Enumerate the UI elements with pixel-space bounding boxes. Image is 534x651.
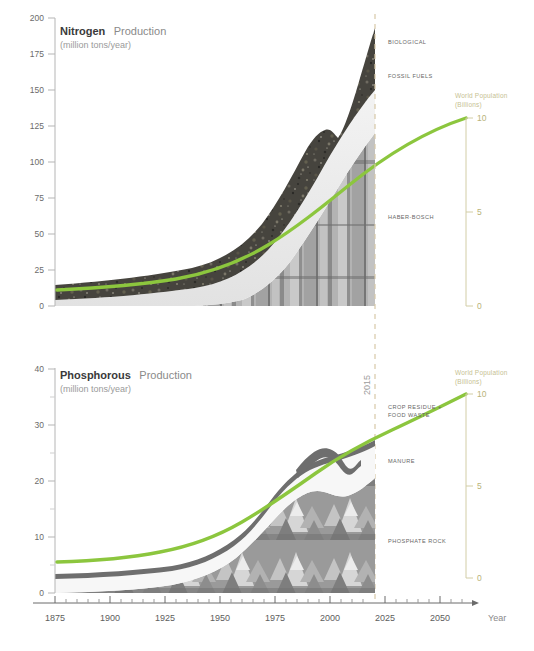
phosphorous-population-tick-10: 10 xyxy=(477,389,487,399)
nitrogen-stacked-areas xyxy=(55,28,375,306)
phosphorous-band-label-manure: MANURE xyxy=(388,458,415,464)
nitrogen-y-tick-label: 175 xyxy=(30,49,44,59)
nitrogen-y-tick: 150 xyxy=(30,85,55,95)
x-axis: 1875 1900 1925 1950 1975 2000 2025 2050 … xyxy=(33,596,506,623)
nitrogen-population-axis-title-line2: (Billions) xyxy=(455,101,482,109)
nitrogen-y-tick: 25 xyxy=(35,265,55,275)
nitrogen-y-tick-label: 75 xyxy=(35,193,45,203)
phosphorous-title-bold: Phosphorous xyxy=(60,369,131,381)
phosphorous-y-tick-label: 10 xyxy=(35,532,45,542)
nitrogen-y-tick: 100 xyxy=(30,157,55,167)
phosphorous-population-axis-title-line1: World Population xyxy=(455,369,508,377)
phosphorous-chart: 0 10 20 30 40 Phosphorous Production (mi… xyxy=(35,364,508,598)
phosphorous-title-rest: Production xyxy=(139,369,192,381)
nitrogen-y-tick: 75 xyxy=(35,193,55,203)
infographic-root: 0 25 50 75 100 125 150 175 200 Nitrogen … xyxy=(0,0,534,651)
year-2015-marker-label: 2015 xyxy=(362,375,372,395)
phosphorous-y-tick: 20 xyxy=(35,476,55,486)
phosphorous-population-tick-0: 0 xyxy=(477,573,482,583)
phosphorous-y-tick: 0 xyxy=(39,588,55,598)
x-tick-label-2000: 2000 xyxy=(320,613,340,623)
nitrogen-chart: 0 25 50 75 100 125 150 175 200 Nitrogen … xyxy=(30,13,508,311)
x-tick-label-1975: 1975 xyxy=(265,613,285,623)
nitrogen-chart-title: Nitrogen Production xyxy=(60,21,166,38)
nitrogen-y-tick: 0 xyxy=(39,301,55,311)
nitrogen-population-tick-5: 5 xyxy=(477,207,482,217)
phosphorous-chart-subtitle: (million tons/year) xyxy=(60,384,131,394)
nitrogen-y-ticks: 0 25 50 75 100 125 150 175 200 xyxy=(30,13,55,311)
nitrogen-y-tick-label: 150 xyxy=(30,85,44,95)
phosphorous-y-tick: 40 xyxy=(35,364,55,374)
phosphorous-population-axis: 10 5 0 World Population (Billions) xyxy=(455,369,508,583)
nitrogen-y-tick-label: 25 xyxy=(35,265,45,275)
nitrogen-population-tick-10: 10 xyxy=(477,113,487,123)
nitrogen-title-rest: Production xyxy=(114,25,167,37)
nitrogen-y-tick-label: 200 xyxy=(30,13,44,23)
nitrogen-y-tick-label: 50 xyxy=(35,229,45,239)
x-axis-label: Year xyxy=(488,613,506,623)
x-tick-label-2025: 2025 xyxy=(375,613,395,623)
nitrogen-band-label-haber-bosch: HABER-BOSCH xyxy=(388,214,434,220)
phosphorous-stacked-areas xyxy=(55,440,375,593)
phosphorous-population-tick-5: 5 xyxy=(477,481,482,491)
nitrogen-y-tick: 50 xyxy=(35,229,55,239)
nitrogen-population-tick-0: 0 xyxy=(477,301,482,311)
phosphorous-y-ticks: 0 10 20 30 40 xyxy=(35,364,55,598)
nitrogen-band-label-fossil-fuels: FOSSIL FUELS xyxy=(388,73,433,79)
phosphorous-y-tick: 30 xyxy=(35,420,55,430)
x-tick-label-2050: 2050 xyxy=(430,613,450,623)
phosphorous-band-label-crop-residue-line2: FOOD WASTE xyxy=(388,412,430,418)
nitrogen-title-bold: Nitrogen xyxy=(60,25,106,37)
x-tick-label-1875: 1875 xyxy=(45,613,65,623)
x-axis-arrow-icon xyxy=(472,600,479,606)
phosphorous-band-label-crop-residue-line1: CROP RESIDUE + xyxy=(388,404,442,410)
phosphorous-y-tick-label: 20 xyxy=(35,476,45,486)
phosphorous-y-tick-label: 30 xyxy=(35,420,45,430)
x-tick-label-1925: 1925 xyxy=(155,613,175,623)
nitrogen-y-tick: 125 xyxy=(30,121,55,131)
nitrogen-y-tick-label: 100 xyxy=(30,157,44,167)
nitrogen-chart-subtitle: (million tons/year) xyxy=(60,40,131,50)
nitrogen-population-axis-title-line1: World Population xyxy=(455,92,508,100)
nitrogen-y-tick: 175 xyxy=(30,49,55,59)
phosphorous-y-tick: 10 xyxy=(35,532,55,542)
x-tick-label-1950: 1950 xyxy=(210,613,230,623)
nitrogen-y-tick: 200 xyxy=(30,13,55,23)
phosphorous-chart-title: Phosphorous Production xyxy=(60,365,192,382)
fertilizer-production-figure: 0 25 50 75 100 125 150 175 200 Nitrogen … xyxy=(0,0,534,651)
nitrogen-band-label-biological: BIOLOGICAL xyxy=(388,39,426,45)
phosphorous-population-axis-title-line2: (Billions) xyxy=(455,378,482,386)
nitrogen-population-axis: 10 5 0 World Population (Billions) xyxy=(455,92,508,311)
nitrogen-y-tick-label: 125 xyxy=(30,121,44,131)
x-tick-label-1900: 1900 xyxy=(100,613,120,623)
nitrogen-y-tick-label: 0 xyxy=(39,301,44,311)
phosphorous-y-tick-label: 0 xyxy=(39,588,44,598)
phosphorous-band-label-phosphate-rock: PHOSPHATE ROCK xyxy=(388,538,446,544)
phosphorous-y-tick-label: 40 xyxy=(35,364,45,374)
